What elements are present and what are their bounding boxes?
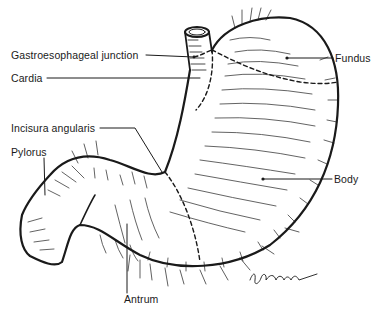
label-body: Body: [334, 173, 358, 185]
label-incisura-angularis: Incisura angularis: [11, 122, 95, 134]
label-cardia: Cardia: [11, 72, 43, 84]
esophagus: [185, 27, 212, 70]
label-pylorus: Pylorus: [11, 146, 47, 158]
surface-hatching: [28, 38, 338, 272]
region-boundaries: [165, 50, 338, 262]
label-gastroesophageal-junction: Gastroesophageal junction: [11, 49, 138, 61]
label-fundus: Fundus: [335, 52, 371, 64]
artist-signature: [250, 274, 317, 284]
stomach-illustration: [0, 0, 380, 311]
label-antrum: Antrum: [124, 293, 158, 305]
